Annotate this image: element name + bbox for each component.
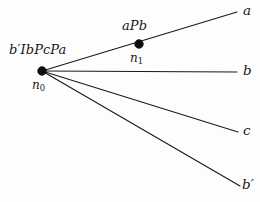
node-name-n1-subscript: 1	[138, 56, 143, 66]
leaf-label-c: c	[243, 124, 251, 138]
diagram-canvas: b′IbPcPa n0 aPb n1 a b c b′	[0, 0, 260, 202]
leaf-label-b-prime: b′	[242, 178, 254, 192]
leaf-label-a: a	[243, 4, 251, 18]
leaf-label-bp-base: b	[242, 176, 251, 192]
node-name-n0: n0	[32, 79, 45, 93]
node-name-n0-base: n	[32, 78, 40, 92]
node-name-n1: n1	[130, 52, 143, 66]
node-dot-n0	[38, 67, 47, 76]
leaf-label-b: b	[243, 64, 252, 78]
node-dot-n1	[135, 40, 144, 49]
edge-n0-to-b	[42, 71, 237, 72]
node-name-n1-base: n	[130, 51, 138, 65]
leaf-label-a-base: a	[243, 2, 251, 18]
node-formula-n1: aPb	[122, 19, 147, 32]
edge-n0-to-b-prime	[42, 71, 240, 186]
leaf-label-bp-prime: ′	[251, 176, 254, 192]
edge-n0-to-c	[42, 71, 238, 132]
leaf-label-b-base: b	[243, 62, 252, 78]
leaf-label-c-base: c	[243, 122, 251, 138]
node-formula-n0: b′IbPcPa	[9, 43, 66, 56]
node-name-n0-subscript: 0	[40, 83, 45, 93]
